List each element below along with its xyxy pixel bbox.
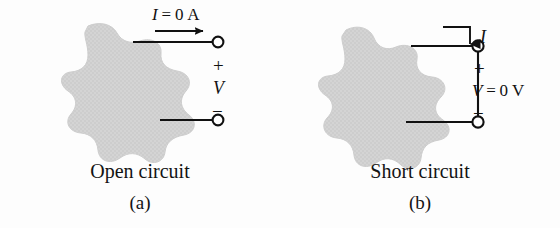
caption-label-b: (b) [280, 192, 560, 214]
current-arrow-down [443, 27, 470, 44]
panel-open-circuit: I = 0 A + V − Open circuit (a) [0, 0, 280, 228]
voltage-symbol: V [472, 81, 483, 100]
polarity-minus-short: − [473, 104, 484, 123]
polarity-plus-open: + [213, 56, 224, 75]
network-blob-shape [319, 27, 450, 168]
polarity-minus-open: − [212, 102, 223, 121]
caption-open-circuit: Open circuit [0, 160, 280, 183]
terminal-top-node [213, 37, 224, 48]
panel-short-circuit: I + V = 0 V − Short circuit (b) [280, 0, 560, 228]
voltage-label-short: V = 0 V [472, 82, 524, 99]
network-blob-shape [62, 24, 195, 163]
voltage-label-open: V [213, 79, 224, 97]
caption-short-circuit: Short circuit [280, 160, 560, 183]
polarity-plus-short: + [474, 59, 485, 78]
figure-open-short-circuit: I = 0 A + V − Open circuit (a) [0, 0, 560, 228]
current-label-short: I [480, 28, 486, 46]
current-label-open: I = 0 A [152, 6, 200, 23]
caption-label-a: (a) [0, 192, 280, 214]
